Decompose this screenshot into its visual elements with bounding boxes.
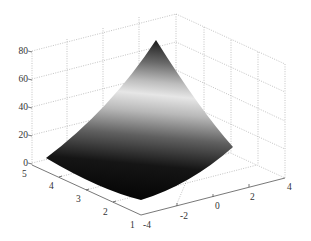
surface: [46, 40, 233, 200]
y-tick-label: 5: [22, 169, 27, 179]
y-tick-label: 2: [103, 207, 108, 217]
x-tick-label: 2: [250, 192, 255, 202]
z-tick-label: 80: [19, 46, 29, 56]
z-tick-label: 20: [19, 130, 29, 140]
z-tick-label: 0: [23, 158, 28, 168]
z-tick-label: 60: [19, 74, 29, 84]
y-tick-label: 4: [49, 181, 54, 191]
z-tick-label: 40: [19, 102, 29, 112]
surface-plot: 80 60 40 20 0 5 4 3 2 1 -4 -2 0 2 4: [0, 0, 311, 241]
x-tick-label: 4: [287, 182, 292, 192]
z-axis-ticks: 80 60 40 20 0: [19, 46, 33, 168]
y-tick-label: 1: [130, 220, 135, 230]
x-tick-label: 0: [215, 201, 220, 211]
y-tick-label: 3: [76, 194, 81, 204]
x-tick-label: -4: [143, 220, 151, 230]
x-tick-label: -2: [180, 211, 188, 221]
